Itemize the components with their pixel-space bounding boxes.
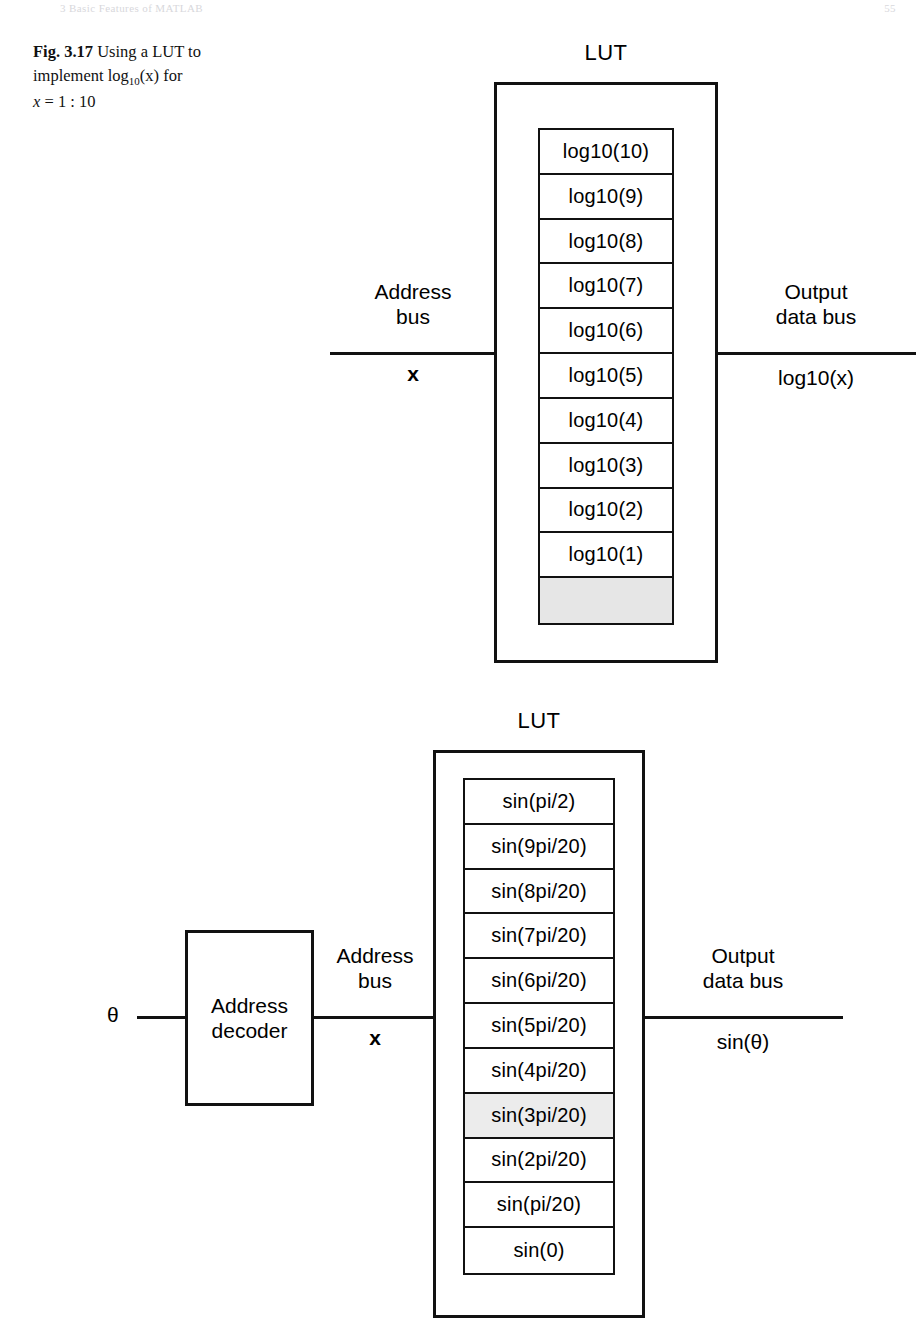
address-bus-signal-bottom: x	[295, 1026, 455, 1050]
caption-log-subscript: 10	[129, 75, 140, 87]
lut-cell-stack-top: log10(10)log10(9)log10(8)log10(7)log10(6…	[538, 128, 674, 625]
lut-cell: log10(2)	[540, 489, 672, 534]
output-bus-label-bottom: Output data bus	[663, 944, 823, 994]
lut-cell: sin(0)	[465, 1228, 613, 1273]
output-bus-line-top	[716, 352, 916, 355]
address-bus-label-top: Address bus	[333, 280, 493, 330]
lut-title-bottom: LUT	[433, 708, 645, 734]
lut-cell: sin(8pi/20)	[465, 870, 613, 915]
lut-cell: sin(6pi/20)	[465, 959, 613, 1004]
running-head-text: 3 Basic Features of MATLAB	[60, 2, 203, 14]
lut-cell: sin(9pi/20)	[465, 825, 613, 870]
running-head: 3 Basic Features of MATLAB 55	[60, 2, 896, 16]
lut-cell: sin(4pi/20)	[465, 1049, 613, 1094]
lut-cell: log10(4)	[540, 399, 672, 444]
page-number: 55	[884, 2, 896, 14]
address-bus-signal-top: x	[333, 362, 493, 386]
output-bus-label-top: Output data bus	[736, 280, 896, 330]
figure-page: 3 Basic Features of MATLAB 55 Fig. 3.17 …	[0, 0, 916, 1324]
lut-cell: sin(3pi/20)	[465, 1094, 613, 1139]
lut-cell: log10(7)	[540, 264, 672, 309]
theta-input-line	[137, 1016, 185, 1019]
caption-line2-a: implement log	[33, 66, 129, 85]
output-bus-signal-bottom: sin(θ)	[663, 1030, 823, 1054]
lut-cell: sin(7pi/20)	[465, 914, 613, 959]
lut-cell: sin(pi/20)	[465, 1183, 613, 1228]
address-decoder-line1: Address	[211, 993, 288, 1018]
output-bus-signal-top: log10(x)	[736, 366, 896, 390]
lut-cell: log10(1)	[540, 533, 672, 578]
address-decoder-line2: decoder	[212, 1018, 288, 1043]
figure-caption: Fig. 3.17 Using a LUT to implement log10…	[33, 40, 283, 114]
lut-cell	[540, 578, 672, 623]
output-bus-line-bottom	[643, 1016, 843, 1019]
caption-line3-var: x	[33, 92, 40, 111]
lut-cell-stack-bottom: sin(pi/2)sin(9pi/20)sin(8pi/20)sin(7pi/2…	[463, 778, 615, 1275]
theta-input-label: θ	[107, 1003, 119, 1027]
address-bus-line-top	[330, 352, 496, 355]
lut-title-top: LUT	[494, 40, 718, 66]
caption-line3-rest: = 1 : 10	[44, 92, 95, 111]
lut-cell: log10(3)	[540, 444, 672, 489]
lut-cell: sin(2pi/20)	[465, 1139, 613, 1184]
lut-cell: sin(pi/2)	[465, 780, 613, 825]
lut-cell: log10(9)	[540, 175, 672, 220]
address-bus-label-bottom: Address bus	[295, 944, 455, 994]
caption-label: Fig. 3.17	[33, 42, 93, 61]
address-bus-line-bottom	[313, 1016, 435, 1019]
lut-cell: log10(6)	[540, 309, 672, 354]
lut-cell: log10(5)	[540, 354, 672, 399]
caption-line2-b: (x) for	[140, 66, 183, 85]
lut-cell: log10(8)	[540, 220, 672, 265]
lut-cell: sin(5pi/20)	[465, 1004, 613, 1049]
caption-line1: Using a LUT to	[97, 42, 201, 61]
lut-cell: log10(10)	[540, 130, 672, 175]
